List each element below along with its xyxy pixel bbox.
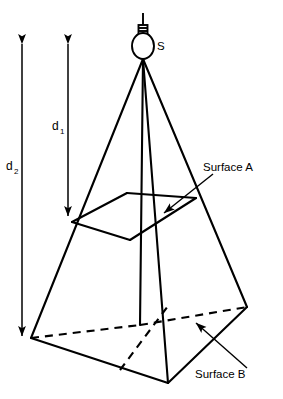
surface-a-shape: [72, 193, 196, 240]
pyramid-light-diagram: S d 1: [0, 0, 283, 399]
surface-a-label: Surface A: [203, 161, 253, 173]
surface-b-label: Surface B: [195, 368, 246, 380]
surface-a-callout: Surface A: [164, 161, 253, 213]
dimension-d2-label: d: [6, 159, 13, 173]
source-label: S: [157, 40, 165, 52]
dimension-d1-subscript: 1: [60, 127, 65, 136]
dimension-d2: d 2: [6, 44, 22, 336]
dimension-d1: d 1: [52, 44, 68, 216]
figure-container: S d 1: [0, 0, 283, 399]
light-bulb-icon: [132, 13, 154, 59]
dimension-d1-label: d: [52, 119, 59, 133]
dimension-d2-subscript: 2: [14, 167, 19, 176]
